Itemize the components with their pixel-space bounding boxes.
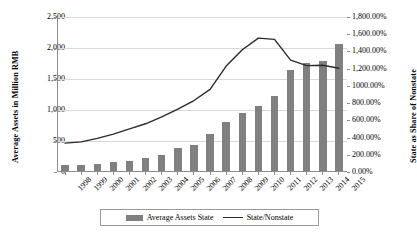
x-axis-tickmark bbox=[65, 172, 66, 175]
y-axis-right-tickmark bbox=[347, 172, 350, 173]
y-axis-right-tickmark bbox=[347, 86, 350, 87]
chart-container: Average Assets in Million RMB State as S… bbox=[0, 0, 417, 236]
y-axis-right-tickmark bbox=[347, 17, 350, 18]
x-axis-tickmark bbox=[81, 172, 82, 175]
y-axis-right-tick-label: 1000.00% bbox=[352, 81, 385, 90]
legend-line-swatch-icon bbox=[223, 217, 243, 218]
x-axis-tick-label: 2012 bbox=[301, 175, 319, 193]
x-axis-tickmark bbox=[97, 172, 98, 175]
x-axis-tick-label: 2015 bbox=[350, 175, 368, 193]
y-axis-right-tickmark bbox=[347, 69, 350, 70]
x-axis-tick-label: 2002 bbox=[140, 175, 158, 193]
x-axis-tickmark bbox=[306, 172, 307, 175]
y-axis-right-tickmark bbox=[347, 120, 350, 121]
x-axis-tickmark bbox=[242, 172, 243, 175]
x-axis-tickmark bbox=[161, 172, 162, 175]
y-axis-right-tick-label: 800.00% bbox=[352, 98, 381, 107]
x-axis-tickmark bbox=[290, 172, 291, 175]
x-axis-tick-label: 2006 bbox=[205, 175, 223, 193]
x-axis-tickmark bbox=[145, 172, 146, 175]
y-axis-right-tick-label: 200.00% bbox=[352, 150, 381, 159]
y-axis-right-tick-label: 1,200.00% bbox=[352, 64, 387, 73]
y-axis-right-title: State as Share of Nonstate bbox=[409, 69, 417, 163]
y-axis-right-tickmark bbox=[347, 103, 350, 104]
legend-item-state-nonstate: State/Nonstate bbox=[223, 213, 294, 222]
x-axis-tick-label: 2001 bbox=[124, 175, 142, 193]
y-axis-right-tick-label: 1,400.00% bbox=[352, 46, 387, 55]
x-axis-tickmark bbox=[338, 172, 339, 175]
x-axis-tickmark bbox=[274, 172, 275, 175]
y-axis-right-tickmark bbox=[347, 34, 350, 35]
x-axis-tickmark bbox=[210, 172, 211, 175]
y-axis-right-tickmark bbox=[347, 155, 350, 156]
x-axis-tickmark bbox=[193, 172, 194, 175]
x-axis-tick-label: 2008 bbox=[237, 175, 255, 193]
y-axis-right-tickmark bbox=[347, 51, 350, 52]
x-axis-tick-label: 2000 bbox=[108, 175, 126, 193]
x-axis-tickmark bbox=[322, 172, 323, 175]
x-axis-tick-label: 2014 bbox=[334, 175, 352, 193]
y-axis-right-tickmark bbox=[347, 138, 350, 139]
x-axis-tickmark bbox=[258, 172, 259, 175]
x-axis-tick-label: 2003 bbox=[156, 175, 174, 193]
x-axis-tick-label: 2013 bbox=[317, 175, 335, 193]
x-axis-tick-label: 2011 bbox=[285, 175, 302, 192]
x-axis-tick-label: 2007 bbox=[221, 175, 239, 193]
x-axis-tickmark bbox=[129, 172, 130, 175]
legend-label-average-assets-state: Average Assets State bbox=[147, 213, 214, 222]
x-axis-tick-label: 2005 bbox=[189, 175, 207, 193]
x-axis-tick-label: 2009 bbox=[253, 175, 271, 193]
legend-label-state-nonstate: State/Nonstate bbox=[247, 213, 294, 222]
legend-bar-swatch-icon bbox=[126, 215, 143, 221]
x-axis-tickmark bbox=[113, 172, 114, 175]
x-axis-tickmark bbox=[177, 172, 178, 175]
x-axis-tick-label: 1999 bbox=[92, 175, 110, 193]
x-axis-tick-label: 1998 bbox=[76, 175, 94, 193]
x-axis-tick-label: 2010 bbox=[269, 175, 287, 193]
x-axis-tick-label: 2004 bbox=[172, 175, 190, 193]
y-axis-left-title: Average Assets in Million RMB bbox=[11, 51, 20, 163]
y-axis-right-tick-label: 1,600.00% bbox=[352, 29, 387, 38]
y-axis-right-tick-label: 0.00% bbox=[352, 167, 373, 176]
y-axis-left-tickmark bbox=[54, 172, 57, 173]
y-axis-right-tick-label: 1,800.00% bbox=[352, 12, 387, 21]
y-axis-right-tick-label: 600.00% bbox=[352, 115, 381, 124]
chart-legend: Average Assets State State/Nonstate bbox=[100, 209, 319, 226]
y-axis-right-tick-label: 400.00% bbox=[352, 133, 381, 142]
legend-item-average-assets-state: Average Assets State bbox=[126, 213, 214, 222]
plot-area bbox=[57, 17, 347, 172]
x-axis-tickmark bbox=[226, 172, 227, 175]
plot-frame bbox=[57, 17, 347, 172]
